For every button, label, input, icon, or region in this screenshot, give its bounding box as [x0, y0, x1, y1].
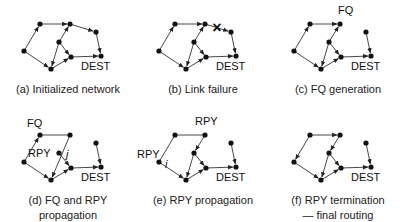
edge-G-E: [71, 56, 98, 57]
edge-C-F: [196, 135, 205, 150]
edge-C-F: [331, 135, 340, 150]
node-C: [337, 21, 342, 26]
edge-D-E: [96, 143, 100, 164]
edge-G-E: [71, 167, 98, 168]
edge-C-D: [70, 24, 93, 31]
node-label-dest: DEST: [216, 171, 246, 183]
edge-A-H: [159, 51, 183, 67]
edge-A-H: [294, 162, 318, 178]
node-F: [326, 39, 331, 44]
node-E: [233, 164, 238, 169]
node-C: [337, 132, 342, 137]
edge-F-H: [187, 42, 194, 66]
node-G: [338, 165, 343, 170]
node-B: [172, 132, 177, 137]
panel-d: DESTFQRPYj(d) FQ and RPYpropagation: [21, 117, 110, 221]
edge-F-C: [329, 27, 338, 42]
node-G: [338, 54, 343, 59]
node-D: [93, 29, 98, 34]
link-failure-x-icon: ×: [212, 19, 221, 36]
edge-D-E: [231, 143, 235, 164]
caption-f: (f) RPY termination: [291, 194, 384, 206]
node-E: [98, 164, 103, 169]
node-A: [291, 159, 296, 164]
node-C: [202, 132, 207, 137]
edge-A-H: [294, 51, 318, 67]
edge-G-E: [341, 56, 368, 57]
node-D: [93, 140, 98, 145]
node-F: [326, 150, 331, 155]
panel-a: DEST(a) Initialized network: [16, 21, 120, 95]
caption-d-line2: propagation: [39, 209, 97, 221]
node-H: [48, 66, 53, 71]
node-G: [68, 54, 73, 59]
node-F: [56, 39, 61, 44]
node-label-fq: FQ: [27, 117, 43, 129]
node-A: [21, 48, 26, 53]
node-H: [183, 177, 188, 182]
panel-f: DEST(f) RPY termination— final routing: [291, 132, 384, 221]
node-label-dest: DEST: [351, 171, 381, 183]
node-D: [363, 29, 368, 34]
edge-D-E: [96, 32, 100, 53]
node-B: [37, 21, 42, 26]
caption-f-line2: — final routing: [303, 209, 374, 221]
node-C: [67, 132, 72, 137]
node-A: [21, 159, 26, 164]
node-H: [183, 66, 188, 71]
edge-F-C: [59, 27, 68, 42]
node-label-dest: DEST: [351, 60, 381, 72]
node-label-j: j: [64, 148, 69, 160]
edge-A-H: [24, 162, 48, 178]
node-label-dest: DEST: [81, 171, 111, 183]
edge-G-E: [341, 167, 368, 168]
node-label-rpy: RPY: [28, 147, 51, 159]
node-G: [203, 54, 208, 59]
node-E: [368, 164, 373, 169]
node-H: [48, 177, 53, 182]
node-B: [307, 21, 312, 26]
node-B: [172, 21, 177, 26]
edge-A-B: [294, 27, 308, 51]
routing-diagram: DEST(a) Initialized network×DEST(b) Link…: [0, 0, 409, 222]
edge-D-E: [231, 32, 235, 53]
node-A: [156, 159, 161, 164]
node-D: [228, 140, 233, 145]
edge-A-B: [159, 27, 173, 51]
edge-F-H: [322, 153, 329, 177]
edge-A-B: [24, 27, 38, 51]
node-label-rpy: RPY: [137, 148, 160, 160]
node-E: [368, 53, 373, 58]
edge-F-H: [322, 42, 329, 66]
edge-G-E: [206, 167, 233, 168]
node-C: [67, 21, 72, 26]
edge-F-C: [194, 27, 203, 42]
node-E: [98, 53, 103, 58]
edge-F-H: [187, 153, 194, 177]
panel-e: DESTRPYRPYi(e) RPY propagation: [137, 115, 253, 206]
caption-c: (c) FQ generation: [295, 83, 381, 95]
edge-D-E: [366, 143, 370, 164]
edge-D-E: [366, 32, 370, 53]
caption-e: (e) RPY propagation: [153, 194, 253, 206]
node-H: [318, 177, 323, 182]
caption-d: (d) FQ and RPY: [29, 194, 109, 206]
node-label-rpy: RPY: [195, 115, 218, 127]
edge-A-H: [159, 162, 183, 178]
node-D: [228, 29, 233, 34]
node-F: [191, 39, 196, 44]
node-G: [68, 165, 73, 170]
node-C: [202, 21, 207, 26]
node-label-dest: DEST: [81, 60, 111, 72]
panel-c: DESTFQ(c) FQ generation: [291, 4, 381, 95]
node-A: [291, 48, 296, 53]
node-B: [307, 132, 312, 137]
panel-b: ×DEST(b) Link failure: [156, 19, 245, 95]
caption-b: (b) Link failure: [168, 83, 238, 95]
node-F: [56, 150, 61, 155]
node-E: [233, 53, 238, 58]
caption-a: (a) Initialized network: [16, 83, 120, 95]
node-F: [191, 150, 196, 155]
edge-B-A: [296, 135, 310, 159]
node-A: [156, 48, 161, 53]
